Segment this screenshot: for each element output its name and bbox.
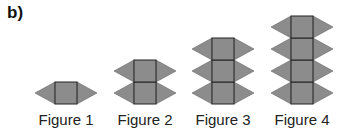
right-triangle — [313, 16, 333, 38]
square — [212, 38, 234, 60]
right-triangle — [313, 82, 333, 104]
left-triangle — [192, 60, 212, 82]
left-triangle — [192, 82, 212, 104]
square — [291, 82, 313, 104]
right-triangle — [156, 60, 176, 82]
figure-2-label: Figure 2 — [105, 111, 185, 128]
figure-4-label: Figure 4 — [262, 111, 342, 128]
square — [134, 82, 156, 104]
left-triangle — [192, 38, 212, 60]
figure-4 — [271, 16, 333, 104]
square — [212, 60, 234, 82]
figure-1-label: Figure 1 — [26, 111, 106, 128]
left-triangle — [35, 82, 55, 104]
right-triangle — [156, 82, 176, 104]
left-triangle — [271, 60, 291, 82]
left-triangle — [114, 60, 134, 82]
square — [55, 82, 77, 104]
figure-1 — [35, 82, 97, 104]
left-triangle — [271, 16, 291, 38]
figure-2 — [114, 60, 176, 104]
square — [291, 16, 313, 38]
right-triangle — [313, 38, 333, 60]
left-triangle — [271, 82, 291, 104]
figure-3 — [192, 38, 254, 104]
square — [291, 60, 313, 82]
right-triangle — [234, 60, 254, 82]
left-triangle — [271, 38, 291, 60]
right-triangle — [313, 60, 333, 82]
figure-3-label: Figure 3 — [183, 111, 263, 128]
square — [212, 82, 234, 104]
right-triangle — [234, 38, 254, 60]
right-triangle — [77, 82, 97, 104]
square — [291, 38, 313, 60]
right-triangle — [234, 82, 254, 104]
square — [134, 60, 156, 82]
left-triangle — [114, 82, 134, 104]
